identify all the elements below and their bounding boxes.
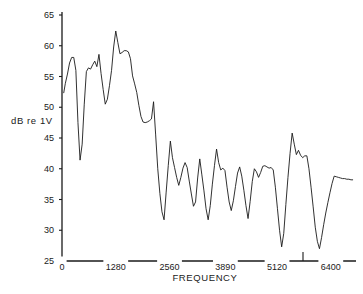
y-tick-label-50: 50 [44, 102, 54, 112]
x-tick-label-2560: 2560 [160, 262, 180, 272]
spectrum-data-line [64, 31, 353, 249]
y-tick-label-35: 35 [44, 195, 54, 205]
x-tick-label-1280: 1280 [106, 262, 126, 272]
x-tick-label-3890: 3890 [215, 262, 235, 272]
y-tick-label-45: 45 [44, 133, 54, 143]
spectrum-chart-figure: 656055504540353025 012802560389051206400… [0, 0, 363, 294]
y-axis-title: dB re 1V [11, 115, 53, 126]
x-tick-label-0: 0 [59, 262, 64, 272]
y-tick-label-30: 30 [44, 225, 54, 235]
y-tick-label-25: 25 [44, 256, 54, 266]
x-axis-tick-labels: 012802560389051206400 [59, 262, 340, 272]
x-tick-label-6400: 6400 [321, 262, 341, 272]
y-tick-label-65: 65 [44, 10, 54, 20]
y-tick-label-60: 60 [44, 41, 54, 51]
y-tick-label-55: 55 [44, 72, 54, 82]
y-axis-tick-labels: 656055504540353025 [44, 10, 54, 266]
x-tick-label-5120: 5120 [267, 262, 287, 272]
y-tick-label-40: 40 [44, 164, 54, 174]
x-axis-title: FREQUENCY [172, 272, 237, 283]
chart-canvas: 656055504540353025 012802560389051206400… [0, 0, 363, 294]
